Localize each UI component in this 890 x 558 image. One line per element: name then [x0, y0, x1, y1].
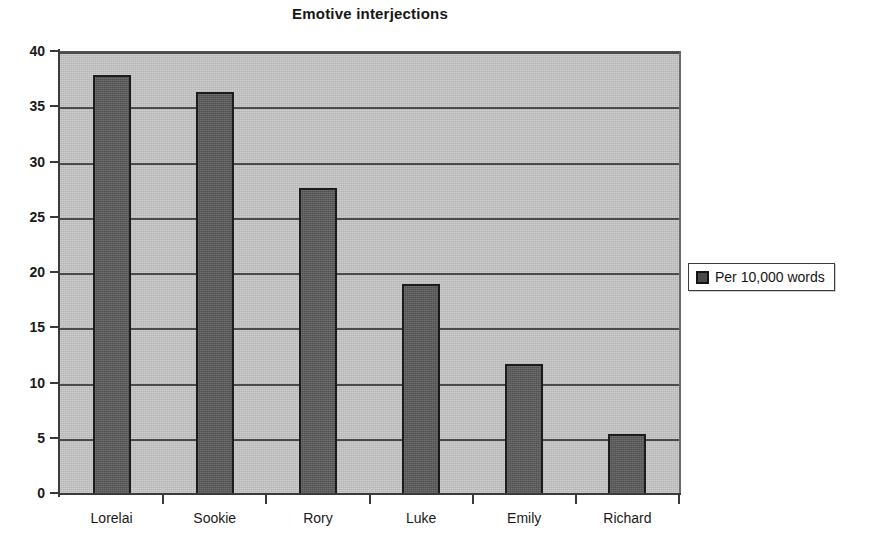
- gridline: [60, 384, 679, 386]
- y-axis-tick: [50, 161, 59, 163]
- y-axis-tick-label: 40: [5, 44, 45, 58]
- bar-rory: [299, 188, 337, 495]
- chart-legend: Per 10,000 words: [688, 263, 835, 291]
- y-axis-tick-label: 25: [5, 210, 45, 224]
- y-axis-tick-label: 35: [5, 99, 45, 113]
- legend-swatch-icon: [696, 271, 709, 284]
- gridline: [60, 107, 679, 109]
- x-axis-label-richard: Richard: [576, 510, 679, 526]
- x-axis-label-luke: Luke: [370, 510, 473, 526]
- bar-richard: [608, 434, 646, 495]
- y-axis-tick: [50, 271, 59, 273]
- y-axis-tick: [50, 492, 59, 494]
- bar-chart: Emotive interjections 0510152025303540 L…: [0, 0, 890, 558]
- gridline: [60, 52, 679, 54]
- y-axis-tick-label: 0: [5, 486, 45, 500]
- y-axis-tick: [50, 105, 59, 107]
- bar-luke: [402, 284, 440, 495]
- x-axis-tick: [265, 494, 267, 504]
- x-axis-label-emily: Emily: [473, 510, 576, 526]
- x-axis-label-sookie: Sookie: [163, 510, 266, 526]
- bar-emily: [505, 364, 543, 495]
- x-axis-tick: [162, 494, 164, 504]
- y-axis-tick: [50, 50, 59, 52]
- y-axis-tick-label: 30: [5, 155, 45, 169]
- bar-sookie: [196, 92, 234, 495]
- plot-area: [60, 51, 681, 495]
- gridline: [60, 439, 679, 441]
- gridline: [60, 273, 679, 275]
- chart-title: Emotive interjections: [60, 5, 680, 22]
- x-axis-label-rory: Rory: [266, 510, 369, 526]
- gridline: [60, 328, 679, 330]
- y-axis-line: [58, 49, 60, 497]
- y-axis-tick: [50, 326, 59, 328]
- bar-lorelai: [93, 75, 131, 495]
- y-axis-tick: [50, 216, 59, 218]
- y-axis-tick: [50, 382, 59, 384]
- gridline: [60, 218, 679, 220]
- y-axis-tick: [50, 437, 59, 439]
- y-axis-tick-label: 15: [5, 320, 45, 334]
- x-axis-tick: [678, 494, 680, 504]
- y-axis-tick-label: 10: [5, 376, 45, 390]
- x-axis-label-lorelai: Lorelai: [60, 510, 163, 526]
- gridline: [60, 163, 679, 165]
- y-axis-tick-label: 20: [5, 265, 45, 279]
- x-axis-tick: [369, 494, 371, 504]
- x-axis-tick: [472, 494, 474, 504]
- legend-label: Per 10,000 words: [715, 270, 825, 284]
- x-axis-tick: [575, 494, 577, 504]
- y-axis-tick-label: 5: [5, 431, 45, 445]
